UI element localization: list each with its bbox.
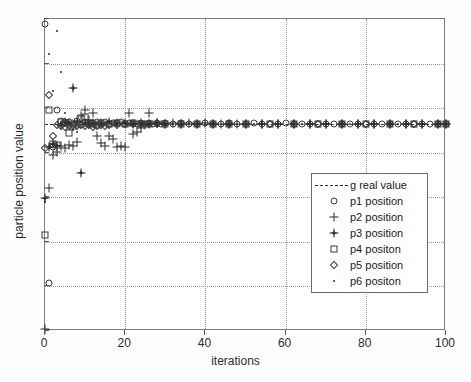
tick-y-5 xyxy=(44,107,49,108)
legend-item-p1[interactable]: p1 position xyxy=(312,193,427,209)
tick-y-3 xyxy=(44,196,49,197)
tick-x-100 xyxy=(445,330,446,335)
legend-symbol-dashdot-line-icon xyxy=(312,177,350,193)
marker-dot xyxy=(48,53,50,55)
legend-label: p6 positon xyxy=(350,275,401,287)
tick-x-80 xyxy=(365,330,366,335)
x-axis-label: iterations xyxy=(0,354,471,368)
marker-dot xyxy=(277,123,279,125)
legend-label: p3 position xyxy=(350,227,403,239)
marker-dot xyxy=(116,123,118,125)
marker-star xyxy=(330,229,339,238)
marker-dot xyxy=(100,123,102,125)
legend-symbol-square-icon xyxy=(312,241,350,257)
tick-y-1 xyxy=(44,285,49,286)
marker-dot xyxy=(373,123,375,125)
tick-y-2 xyxy=(44,241,49,242)
marker-square xyxy=(331,246,338,253)
tick-x-60 xyxy=(285,330,286,335)
legend-item-p6[interactable]: p6 positon xyxy=(312,273,427,289)
marker-dot xyxy=(253,123,255,125)
marker-dot xyxy=(301,123,303,125)
marker-dot xyxy=(80,121,82,123)
marker-dot xyxy=(108,122,110,124)
tick-x-20 xyxy=(124,330,125,335)
legend-label: p2 position xyxy=(350,211,403,223)
legend-label: p1 position xyxy=(350,195,403,207)
marker-dot xyxy=(228,123,230,125)
ticklabel-x-100: 100 xyxy=(435,336,455,350)
ticklabel-x-20: 20 xyxy=(118,336,131,350)
tick-y-7 xyxy=(44,18,49,19)
marker-dot xyxy=(349,123,351,125)
dashdot-line-icon xyxy=(315,185,348,186)
marker-dot xyxy=(56,30,58,32)
marker-dot xyxy=(325,123,327,125)
marker-diamond xyxy=(330,261,338,269)
tick-y-4 xyxy=(44,152,49,153)
tick-y-6 xyxy=(44,63,49,64)
y-axis-label: particle position value xyxy=(12,91,26,271)
figure-canvas: 020406080100 01234567 iterations particl… xyxy=(0,0,471,382)
legend-symbol-circle-icon xyxy=(312,193,350,209)
legend-symbol-plus-icon xyxy=(312,209,350,225)
marker-dot xyxy=(445,123,447,125)
legend-item-p5[interactable]: p5 position xyxy=(312,257,427,273)
marker-dot xyxy=(60,71,62,73)
legend-symbol-diamond-icon xyxy=(312,257,350,273)
marker-plus xyxy=(330,213,339,222)
marker-dot xyxy=(52,90,54,92)
marker-dot xyxy=(72,129,74,131)
tick-x-40 xyxy=(204,330,205,335)
marker-dot xyxy=(140,123,142,125)
marker-dot xyxy=(333,280,335,282)
legend-item-p4[interactable]: p4 positon xyxy=(312,241,427,257)
marker-circle xyxy=(331,198,338,205)
marker-dot xyxy=(76,131,78,133)
legend-item-p2[interactable]: p2 position xyxy=(312,209,427,225)
legend-symbol-star-icon xyxy=(312,225,350,241)
marker-dot xyxy=(188,123,190,125)
marker-dot xyxy=(172,123,174,125)
legend-label: p5 position xyxy=(350,259,403,271)
marker-dot xyxy=(156,123,158,125)
legend-symbol-dot-icon xyxy=(312,273,350,289)
legend-item-g-real-value[interactable]: g real value xyxy=(312,177,427,193)
legend: g real valuep1 positionp2 positionp3 pos… xyxy=(311,173,428,293)
ticklabel-x-60: 60 xyxy=(278,336,291,350)
marker-dot xyxy=(64,112,66,114)
marker-dot xyxy=(397,123,399,125)
legend-label: g real value xyxy=(350,179,407,191)
marker-dot xyxy=(68,121,70,123)
marker-dot xyxy=(44,201,46,203)
marker-dot xyxy=(124,122,126,124)
legend-label: p4 positon xyxy=(350,243,401,255)
legend-item-p3[interactable]: p3 position xyxy=(312,225,427,241)
marker-dot xyxy=(92,122,94,124)
marker-dot xyxy=(84,122,86,124)
ticklabel-x-0: 0 xyxy=(41,336,48,350)
ticklabel-x-80: 80 xyxy=(358,336,371,350)
ticklabel-x-40: 40 xyxy=(198,336,211,350)
marker-dot xyxy=(204,123,206,125)
marker-dot xyxy=(421,123,423,125)
tick-y-0 xyxy=(44,330,49,331)
